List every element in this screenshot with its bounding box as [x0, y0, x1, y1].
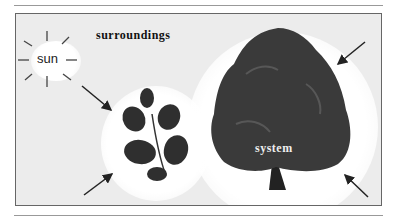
arrow-top-right — [338, 42, 365, 64]
arrow-bottom-right — [345, 175, 368, 197]
tree-icon — [211, 28, 350, 190]
leaves-icon — [118, 88, 191, 181]
diagram-frame: sun surroundings system — [15, 13, 382, 206]
diagram-graphics — [16, 14, 381, 205]
bottom-rule — [14, 215, 383, 216]
system-label: system — [255, 141, 293, 156]
surroundings-label: surroundings — [96, 28, 170, 43]
top-rule — [14, 5, 383, 6]
arrow-bottom-left — [84, 174, 112, 195]
arrow-sun-to-leaves — [82, 86, 111, 110]
sun-label: sun — [37, 51, 58, 66]
